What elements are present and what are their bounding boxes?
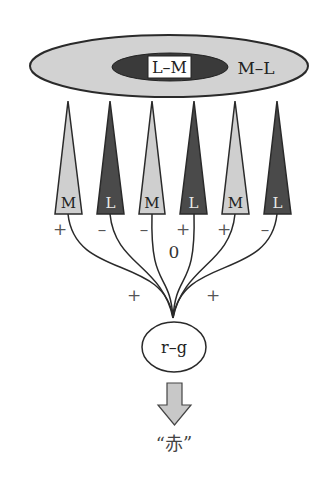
cone-l-3: L — [264, 101, 291, 214]
cone-label: M — [61, 194, 76, 212]
center-weight-label: 0 — [169, 242, 180, 262]
cone-label: L — [273, 194, 283, 212]
cone-m-1: M — [55, 101, 82, 214]
cone-label: M — [144, 194, 159, 212]
cone-label: L — [106, 194, 116, 212]
lower-sign-left: + — [127, 285, 141, 305]
sign-label: – — [261, 219, 270, 239]
sign-label: + — [53, 219, 67, 239]
surround-label: M–L — [237, 58, 274, 78]
rg-cell-label: r–g — [161, 338, 187, 357]
cone-m-3: M — [222, 101, 249, 214]
center-label: L–M — [152, 58, 187, 77]
sign-label: + — [217, 219, 231, 239]
cone-m-2: M — [139, 101, 165, 214]
lower-sign-right: + — [206, 285, 220, 305]
color-opponent-diagram: L–M M–L M L M L M L + – – + + – — [0, 0, 333, 482]
cone-label: L — [189, 194, 199, 212]
sign-label: – — [140, 219, 149, 239]
output-label: “赤” — [156, 433, 192, 454]
down-arrow-icon — [158, 383, 191, 425]
cone-label: M — [228, 194, 243, 212]
sign-label: + — [176, 219, 190, 239]
cone-l-1: L — [97, 101, 124, 214]
cone-l-2: L — [180, 101, 207, 214]
sign-label: – — [98, 219, 107, 239]
